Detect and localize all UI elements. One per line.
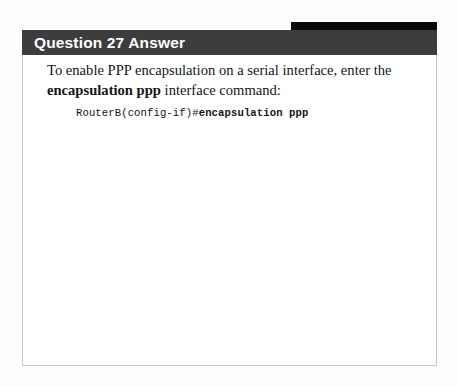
- cli-prompt: RouterB(config-if)#: [76, 107, 199, 119]
- cli-code-block: RouterB(config-if)#encapsulation ppp: [76, 106, 308, 121]
- answer-card-header: Question 27 Answer: [22, 30, 437, 55]
- answer-bold-command: encapsulation ppp: [47, 82, 161, 98]
- answer-lead-text: To enable PPP encapsulation on a serial …: [47, 62, 392, 78]
- answer-paragraph: To enable PPP encapsulation on a serial …: [47, 61, 397, 100]
- page-canvas: Question 27 Answer To enable PPP encapsu…: [0, 0, 457, 387]
- page-title: Question 27 Answer: [34, 35, 185, 51]
- cli-command: encapsulation ppp: [199, 107, 309, 119]
- answer-trailing-text: interface command:: [161, 82, 281, 98]
